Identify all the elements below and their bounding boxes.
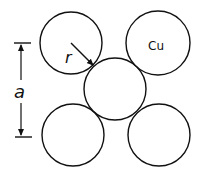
atom-bottom-right xyxy=(128,104,190,166)
lattice-constant-label: a xyxy=(14,81,25,102)
crystal-structure-diagram: Cu r a xyxy=(0,0,199,178)
atom-bottom-left xyxy=(42,104,104,166)
radius-arrow xyxy=(71,43,93,65)
element-label: Cu xyxy=(148,39,164,53)
radius-label: r xyxy=(65,48,73,67)
